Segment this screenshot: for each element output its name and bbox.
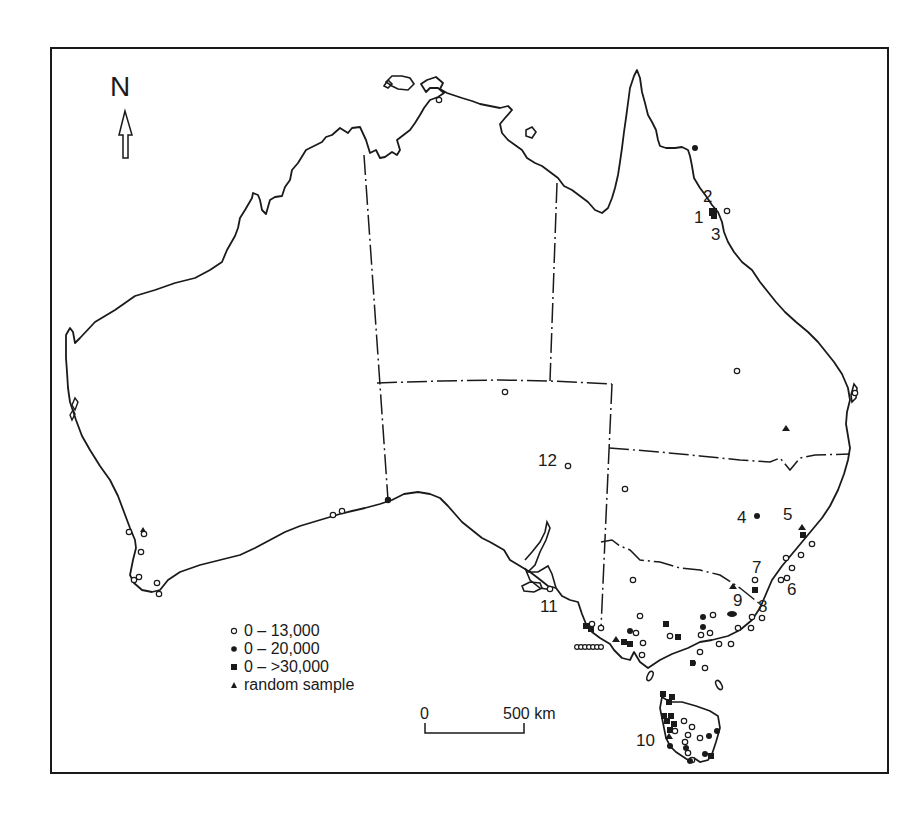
marker-open-circle (126, 529, 131, 534)
marker-open-circle (622, 486, 627, 491)
map-border (51, 48, 888, 773)
marker-filled-circle (714, 728, 720, 734)
marker-triangle (612, 636, 620, 642)
marker-filled-square (588, 626, 594, 632)
marker-triangle (729, 583, 737, 589)
marker-open-circle (735, 625, 740, 630)
marker-triangle (140, 527, 146, 532)
marker-open-circle (330, 512, 335, 517)
marker-filled-square (663, 621, 669, 627)
marker-filled-square (660, 691, 666, 697)
marker-open-circle (598, 625, 603, 630)
marker-open-circle (789, 565, 794, 570)
site-label-2: 2 (703, 188, 712, 205)
marker-filled-square (690, 660, 695, 666)
site-label-1: 1 (694, 209, 703, 226)
marker-open-circle (682, 739, 687, 744)
site-label-5: 5 (783, 506, 792, 523)
legend-label: 0 – >30,000 (244, 658, 329, 676)
marker-filled-circle (385, 497, 391, 503)
marker-open-circle (136, 574, 141, 579)
marker-filled-circle (687, 758, 693, 764)
marker-filled-circle (706, 733, 712, 739)
marker-open-circle (702, 665, 707, 670)
flinders-island (714, 679, 723, 690)
king-island (646, 670, 655, 681)
border-nt-qld (550, 183, 557, 381)
site-label-10: 10 (636, 732, 655, 749)
marker-filled-square (752, 587, 758, 593)
marker-open-circle (710, 612, 715, 617)
marker-filled-circle (700, 624, 706, 630)
filled-square-markers (583, 208, 806, 759)
site-label-7: 7 (752, 559, 761, 576)
marker-open-circle (630, 577, 635, 582)
site-label-9: 9 (733, 592, 742, 609)
marker-filled-circle (667, 743, 673, 749)
site-label-4: 4 (737, 509, 746, 526)
marker-open-circle (724, 208, 729, 213)
marker-open-circle (639, 652, 644, 657)
marker-filled-square (621, 639, 627, 645)
north-label: N (110, 73, 130, 101)
marker-filled-circle (692, 145, 698, 151)
marker-filled-square (627, 641, 633, 647)
marker-open-circle (716, 641, 721, 646)
marker-cluster-site-9 (727, 611, 737, 617)
marker-open-circle (599, 645, 604, 650)
marker-open-circle (749, 614, 754, 619)
scale-end-label: 500 km (503, 706, 555, 722)
marker-filled-square (675, 634, 681, 640)
marker-filled-circle (627, 628, 633, 634)
legend-item-filled-circle: 0 – 20,000 (228, 640, 354, 658)
site-label-3: 3 (711, 226, 720, 243)
marker-filled-square (800, 532, 806, 538)
australia-mainland-coastline (66, 70, 850, 668)
marker-filled-square (667, 727, 673, 733)
legend-label: random sample (244, 676, 354, 694)
marker-filled-circle (702, 751, 708, 757)
marker-filled-circle (700, 614, 706, 620)
open-circle-icon (228, 627, 240, 635)
marker-open-circle (778, 577, 783, 582)
marker-open-circle (852, 390, 857, 395)
marker-open-circle (154, 580, 159, 585)
marker-open-circle (734, 368, 739, 373)
site-label-11: 11 (540, 598, 558, 615)
border-wa-nt-sa (364, 155, 388, 500)
state-borders (364, 155, 850, 628)
marker-open-circle (681, 718, 686, 723)
marker-open-circle (131, 577, 136, 582)
tiwi-islands (384, 76, 414, 90)
marker-filled-square (671, 721, 677, 727)
marker-open-circle (339, 508, 344, 513)
marker-open-circle (672, 728, 677, 733)
marker-filled-square (666, 699, 672, 705)
marker-open-circle (748, 625, 753, 630)
legend-label: 0 – 20,000 (244, 640, 320, 658)
legend-label: 0 – 13,000 (244, 622, 320, 640)
marker-triangle (782, 425, 790, 431)
marker-open-circle (667, 633, 672, 638)
site-label-8: 8 (758, 598, 767, 615)
border-qld-nsw (609, 448, 850, 470)
north-arrow-icon (119, 111, 132, 158)
legend-item-triangle: random sample (228, 676, 354, 694)
map-legend: 0 – 13,000 0 – 20,000 0 – >30,000 random… (228, 622, 354, 694)
triangle-icon (228, 681, 240, 689)
marker-open-circle (640, 640, 645, 645)
groote-eylandt (526, 127, 536, 138)
map-canvas (0, 0, 919, 813)
site-label-12: 12 (538, 452, 557, 469)
filled-circle-markers (385, 145, 760, 764)
shark-bay-islands (70, 398, 78, 420)
marker-filled-square (711, 213, 717, 219)
marker-filled-square (708, 753, 714, 759)
marker-open-circle (697, 735, 702, 740)
filled-circle-icon (228, 645, 240, 653)
marker-open-circle (565, 463, 570, 468)
marker-filled-square (664, 718, 670, 724)
legend-item-filled-square: 0 – >30,000 (228, 658, 354, 676)
legend-item-open-circle: 0 – 13,000 (228, 622, 354, 640)
marker-open-circle (589, 621, 594, 626)
